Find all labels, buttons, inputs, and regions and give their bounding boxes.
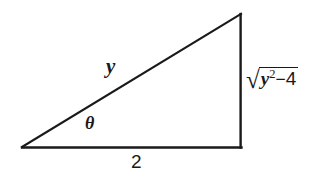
triangle-hypotenuse-line <box>22 14 241 147</box>
radicand-operator: − <box>275 69 285 89</box>
radicand-variable: y <box>261 68 269 89</box>
hypotenuse-label: y <box>106 56 115 77</box>
theta-angle-label: θ <box>85 114 94 132</box>
base-length-label: 2 <box>131 152 142 171</box>
trig-triangle-figure: y θ 2 √y2−4 <box>0 0 332 176</box>
opposite-side-label: √y2−4 <box>246 67 298 92</box>
radicand: y2−4 <box>259 67 298 89</box>
radicand-constant: 4 <box>286 68 297 89</box>
radical-sign-icon: √ <box>246 67 260 92</box>
radical-expression: √y2−4 <box>246 67 298 92</box>
